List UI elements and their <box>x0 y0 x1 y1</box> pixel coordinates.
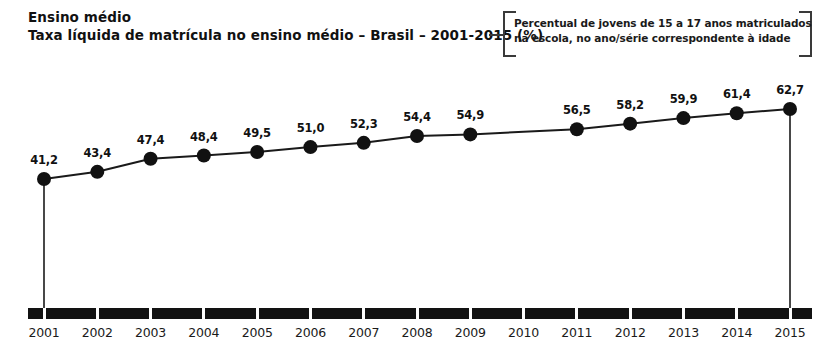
data-point-marker[interactable] <box>357 136 371 150</box>
data-point-label: 43,4 <box>83 146 111 160</box>
data-point-marker[interactable] <box>250 145 264 159</box>
data-point-label: 59,9 <box>670 92 698 106</box>
x-axis-tick-label: 2005 <box>242 325 273 340</box>
x-axis-tick-gap <box>256 308 259 319</box>
data-point-marker[interactable] <box>37 172 51 186</box>
data-point-label: 54,9 <box>456 108 484 122</box>
x-axis-tick-gap <box>575 308 578 319</box>
data-point-marker[interactable] <box>730 106 744 120</box>
x-axis-tick-label: 2001 <box>28 325 59 340</box>
data-point-label: 48,4 <box>190 130 218 144</box>
x-axis-tick-gap <box>469 308 472 319</box>
x-axis-tick-gap <box>149 308 152 319</box>
data-point-label: 47,4 <box>137 133 165 147</box>
data-point-label: 54,4 <box>403 110 431 124</box>
x-axis-tick-gap <box>416 308 419 319</box>
x-axis-bar <box>28 308 812 319</box>
x-axis-tick-gap <box>96 308 99 319</box>
x-axis-tick-label: 2014 <box>721 325 752 340</box>
data-point-marker[interactable] <box>144 152 158 166</box>
x-axis-tick-gap <box>522 308 525 319</box>
x-axis-tick-label: 2008 <box>401 325 432 340</box>
x-axis-tick-gap <box>682 308 685 319</box>
x-axis-tick-gap <box>43 308 46 319</box>
x-axis-tick-gap <box>735 308 738 319</box>
x-axis-tick-gap <box>309 308 312 319</box>
x-axis-tick-label: 2010 <box>508 325 539 340</box>
x-axis-tick-label: 2009 <box>455 325 486 340</box>
x-axis-tick-label: 2012 <box>615 325 646 340</box>
data-point-marker[interactable] <box>90 165 104 179</box>
x-axis-tick-label: 2013 <box>668 325 699 340</box>
data-point-marker[interactable] <box>570 122 584 136</box>
data-point-marker[interactable] <box>197 149 211 163</box>
x-axis-tick-label: 2002 <box>82 325 113 340</box>
data-point-marker[interactable] <box>303 140 317 154</box>
x-axis-tick-label: 2004 <box>188 325 219 340</box>
chart-plot-area: 41,243,447,448,449,551,052,354,454,956,5… <box>0 0 826 354</box>
x-axis-tick-label: 2003 <box>135 325 166 340</box>
data-point-label: 49,5 <box>243 126 271 140</box>
x-axis-tick-label: 2015 <box>774 325 805 340</box>
x-axis-tick-gap <box>629 308 632 319</box>
x-axis-tick-label: 2006 <box>295 325 326 340</box>
x-axis-tick-gap <box>362 308 365 319</box>
data-point-marker[interactable] <box>410 129 424 143</box>
data-point-marker[interactable] <box>623 117 637 131</box>
data-point-marker[interactable] <box>463 127 477 141</box>
chart-canvas <box>0 0 826 354</box>
x-axis-tick-label: 2011 <box>561 325 592 340</box>
x-axis-tick-label: 2007 <box>348 325 379 340</box>
data-point-label: 41,2 <box>30 153 58 167</box>
data-point-label: 56,5 <box>563 103 591 117</box>
data-point-marker[interactable] <box>783 102 797 116</box>
x-axis-tick-gap <box>202 308 205 319</box>
data-point-label: 62,7 <box>776 83 804 97</box>
data-point-label: 61,4 <box>723 87 751 101</box>
data-point-label: 58,2 <box>616 98 644 112</box>
data-point-label: 51,0 <box>297 121 325 135</box>
data-point-label: 52,3 <box>350 117 378 131</box>
x-axis-tick-gap <box>789 308 792 319</box>
data-point-marker[interactable] <box>676 111 690 125</box>
